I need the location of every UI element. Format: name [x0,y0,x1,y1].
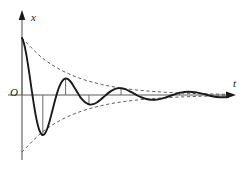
y-axis-label: x [31,12,36,23]
extrema-tick-group [22,38,179,135]
oscillation-plot [0,0,251,180]
upper-envelope-curve [22,38,228,94]
damped-oscillation-figure: x t O [0,0,251,180]
origin-label: O [10,87,18,98]
lower-envelope-curve [22,96,228,152]
x-axis-label: t [233,78,236,89]
vertical-axis-arrow-icon [19,10,26,20]
damped-oscillation-curve [22,38,228,135]
